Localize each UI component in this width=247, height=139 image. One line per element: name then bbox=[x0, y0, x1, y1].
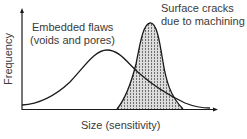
embedded-flaws-label-line1: Embedded flaws bbox=[32, 21, 114, 33]
y-axis-label: Frequency bbox=[2, 33, 14, 85]
flaw-distribution-diagram: Embedded flaws (voids and pores) Surface… bbox=[0, 0, 247, 139]
y-axis-arrow-icon bbox=[20, 8, 24, 13]
surface-cracks-label-line1: Surface cracks bbox=[161, 2, 234, 14]
x-axis-label: Size (sensitivity) bbox=[81, 119, 160, 131]
surface-cracks-label-line2: due to machining bbox=[161, 15, 245, 27]
embedded-flaws-label-line2: (voids and pores) bbox=[30, 34, 115, 46]
embedded-flaws-curve bbox=[22, 50, 210, 108]
x-axis-arrow-icon bbox=[213, 108, 218, 112]
